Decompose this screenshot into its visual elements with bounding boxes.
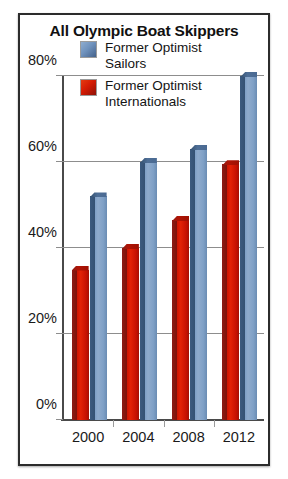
bar-front-face bbox=[95, 196, 107, 420]
bar-internationals-2012 bbox=[222, 164, 239, 420]
chart-card: All Olympic Boat Skippers 0%20%40%60%80%… bbox=[18, 13, 270, 466]
y-tick-mark bbox=[56, 161, 63, 162]
bar-top-cap bbox=[172, 216, 189, 221]
plot-area: 0%20%40%60%80% 2000200420082012 bbox=[63, 76, 264, 420]
x-tick-mark bbox=[113, 420, 114, 427]
x-tick-mark bbox=[164, 420, 165, 427]
y-tick-mark bbox=[56, 75, 63, 76]
legend-swatch-red bbox=[80, 79, 97, 96]
y-tick-mark bbox=[56, 419, 63, 420]
legend-label: Former Optimist Sailors bbox=[105, 40, 202, 71]
x-tick-label: 2012 bbox=[223, 429, 255, 445]
bar-sailors-2008 bbox=[190, 149, 207, 420]
y-tick-mark bbox=[56, 247, 63, 248]
bar-front-face bbox=[245, 76, 257, 420]
bar-group bbox=[122, 76, 157, 420]
y-tick-label: 0% bbox=[36, 396, 57, 412]
bar-group bbox=[172, 76, 207, 420]
bar-group bbox=[222, 76, 257, 420]
x-tick-label: 2008 bbox=[172, 429, 204, 445]
chart-legend: Former Optimist SailorsFormer Optimist I… bbox=[80, 40, 266, 116]
bar-front-face bbox=[227, 164, 239, 420]
bar-sailors-2012 bbox=[240, 76, 257, 420]
bar-sailors-2004 bbox=[140, 162, 157, 420]
bar-top-cap bbox=[222, 160, 239, 165]
bar-top-cap bbox=[140, 158, 157, 163]
bar-group bbox=[72, 76, 107, 420]
y-tick-mark bbox=[56, 333, 63, 334]
bar-internationals-2000 bbox=[72, 270, 89, 421]
x-tick-label: 2000 bbox=[72, 429, 104, 445]
bar-top-cap bbox=[122, 244, 139, 249]
y-axis-line bbox=[62, 75, 64, 421]
bar-front-face bbox=[145, 162, 157, 420]
bar-front-face bbox=[77, 270, 89, 421]
bar-internationals-2008 bbox=[172, 220, 189, 420]
legend-swatch-blue bbox=[80, 41, 97, 58]
y-tick-label: 60% bbox=[28, 138, 57, 154]
x-tick-label: 2004 bbox=[122, 429, 154, 445]
legend-item: Former Optimist Sailors bbox=[80, 40, 266, 71]
x-tick-mark bbox=[214, 420, 215, 427]
bar-sailors-2000 bbox=[90, 196, 107, 420]
bar-top-cap bbox=[190, 145, 207, 150]
legend-item: Former Optimist Internationals bbox=[80, 78, 266, 109]
bar-front-face bbox=[177, 220, 189, 420]
y-tick-label: 80% bbox=[28, 52, 57, 68]
chart-title: All Olympic Boat Skippers bbox=[20, 22, 268, 40]
y-tick-label: 40% bbox=[28, 224, 57, 240]
y-tick-label: 20% bbox=[28, 310, 57, 326]
bar-internationals-2004 bbox=[122, 248, 139, 420]
bar-top-cap bbox=[90, 192, 107, 197]
legend-label: Former Optimist Internationals bbox=[105, 78, 202, 109]
bar-top-cap bbox=[72, 266, 89, 271]
bar-front-face bbox=[195, 149, 207, 420]
bar-front-face bbox=[127, 248, 139, 420]
